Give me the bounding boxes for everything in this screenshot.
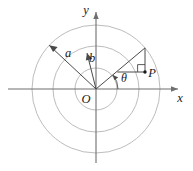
y-axis-label: y <box>81 3 89 17</box>
y-axis-arrowhead <box>93 12 98 19</box>
ray-a-arrowhead <box>49 45 57 52</box>
right-triangle-group <box>117 48 146 74</box>
point-p-dot <box>143 70 146 73</box>
axes-group <box>8 12 178 163</box>
theta-label: θ <box>121 71 127 85</box>
point-p-label: P <box>147 66 156 80</box>
origin-label: O <box>81 92 90 106</box>
theta-arc-arrowhead <box>113 75 118 80</box>
ray-b-label: b <box>89 51 95 65</box>
polar-diagram-svg: y x O a b θ P <box>0 0 193 171</box>
x-axis-label: x <box>176 91 183 105</box>
rays-group <box>49 45 145 89</box>
diagram-canvas: y x O a b θ P <box>0 0 193 171</box>
ray-a-label: a <box>65 46 71 60</box>
